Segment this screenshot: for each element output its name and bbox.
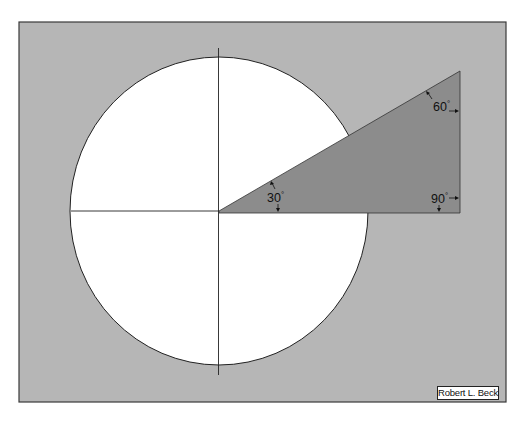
diagram-canvas: 30° 60° 90° (0, 0, 527, 422)
author-credit: Robert L. Beck (437, 386, 499, 400)
